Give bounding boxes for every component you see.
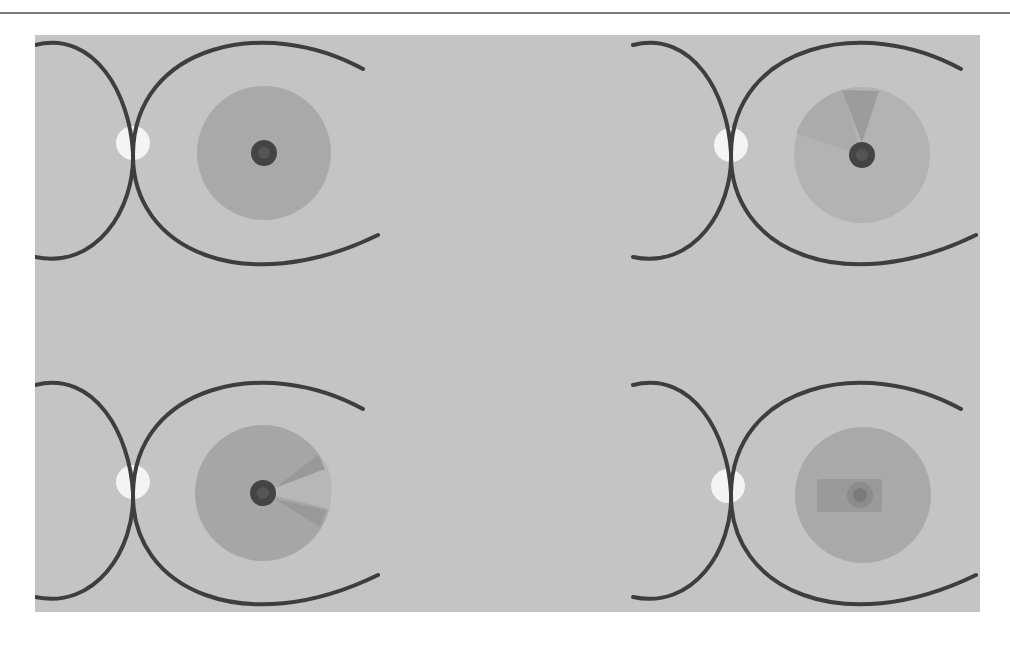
diagram-panel [35, 35, 980, 612]
eye-diagram-top-left [35, 43, 378, 265]
top-rule [0, 12, 1010, 14]
eye-diagram-bottom-right [633, 383, 976, 605]
eye-diagram-bottom-left [35, 383, 378, 605]
diagram-svg [35, 35, 980, 612]
eye-diagram-top-right [633, 43, 976, 265]
